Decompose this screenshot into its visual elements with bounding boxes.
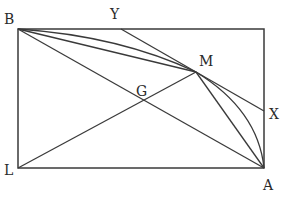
label-M: M: [199, 53, 213, 69]
geometry-figure: B Y M G X L A: [0, 0, 289, 206]
line-MA: [196, 72, 264, 168]
label-G: G: [136, 83, 147, 99]
label-X: X: [269, 106, 279, 122]
label-Y: Y: [109, 6, 120, 22]
label-A: A: [262, 177, 274, 193]
label-L: L: [4, 162, 13, 178]
line-LM: [18, 72, 196, 168]
diagram-canvas: B Y M G X L A: [0, 0, 289, 206]
line-BM: [18, 29, 196, 72]
label-B: B: [4, 11, 14, 27]
